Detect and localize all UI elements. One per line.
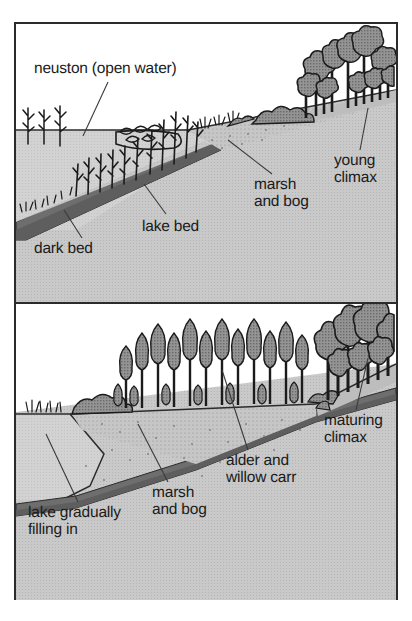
figure-frame: neuston (open water) dark bed lake bed m…: [14, 22, 398, 600]
panel-later-hydrosere: lake gradually filling in marsh and bog …: [16, 304, 396, 600]
label-lake-bed: lake bed: [142, 218, 199, 235]
panel-bottom-illustration: [16, 304, 396, 600]
label-marsh-and-bog-2: marsh and bog: [152, 484, 207, 518]
label-dark-bed: dark bed: [34, 240, 93, 257]
label-young-climax: young climax: [334, 152, 377, 186]
label-lake-gradually-filling-in: lake gradually filling in: [28, 504, 121, 538]
label-neuston-open-water: neuston (open water): [34, 60, 176, 77]
label-alder-and-willow-carr: alder and willow carr: [226, 452, 296, 486]
label-marsh-and-bog: marsh and bog: [254, 176, 309, 210]
label-maturing-climax: maturing climax: [324, 412, 383, 446]
panel-early-hydrosere: neuston (open water) dark bed lake bed m…: [16, 24, 396, 304]
